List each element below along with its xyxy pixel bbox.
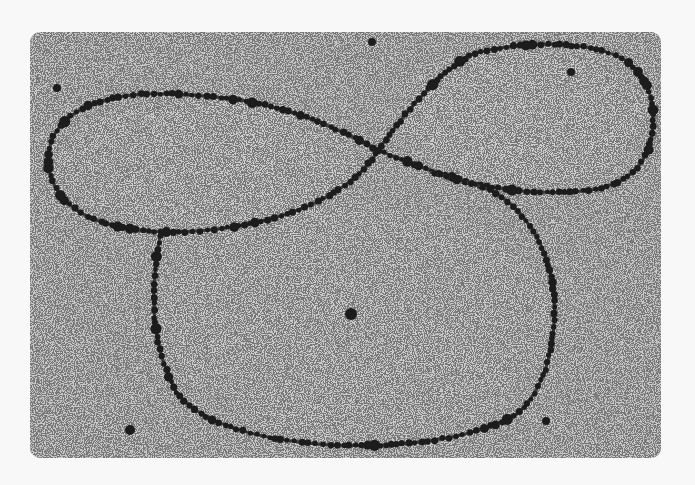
nucleosome-bead <box>54 185 60 191</box>
nucleosome-bead <box>402 111 409 118</box>
nucleosome-bead <box>225 225 230 230</box>
nucleosome-bead <box>399 157 404 162</box>
nucleosome-bead <box>534 234 539 239</box>
nucleosome-bead <box>181 229 188 236</box>
nucleosome-bead <box>154 339 161 346</box>
nucleosome-bead <box>157 346 164 353</box>
nucleosome-bead <box>50 133 57 140</box>
nucleosome-bead <box>255 431 260 436</box>
nucleosome-bead <box>530 188 537 195</box>
nucleosome-bead <box>197 228 203 234</box>
nucleosome-bead <box>292 438 297 443</box>
nucleosome-bead <box>527 223 533 229</box>
nucleosome-bead <box>398 118 404 124</box>
nucleosome-bead <box>123 94 128 99</box>
nucleosome-bead <box>402 156 413 167</box>
nucleosome-bead <box>158 233 164 239</box>
nucleosome-bead <box>180 398 187 405</box>
nucleosome-bead <box>502 185 509 192</box>
particle <box>567 68 575 76</box>
nucleosome-bead <box>412 440 417 445</box>
nucleosome-bead <box>515 208 521 214</box>
nucleosome-bead <box>292 110 297 115</box>
nucleosome-bead <box>264 217 271 224</box>
nucleosome-bead <box>138 90 145 97</box>
nucleosome-bead <box>484 48 491 55</box>
nucleosome-bead <box>532 391 537 396</box>
nucleosome-bead <box>613 52 619 58</box>
nucleosome-bead <box>85 214 91 220</box>
nucleosome-bead <box>279 213 284 218</box>
nucleosome-bead <box>649 130 656 137</box>
nucleosome-bead <box>228 424 233 429</box>
nucleosome-bead <box>473 427 480 434</box>
nucleosome-bead <box>544 359 550 365</box>
nucleosome-bead <box>648 95 654 101</box>
nucleosome-bead <box>151 91 157 97</box>
nucleosome-bead <box>233 426 239 432</box>
nucleosome-bead <box>189 93 194 98</box>
nucleosome-bead <box>650 117 656 123</box>
nucleosome-bead <box>132 226 139 233</box>
nucleosome-bead <box>74 109 79 114</box>
nucleosome-bead <box>228 95 238 105</box>
nucleosome-bead <box>262 434 267 439</box>
nucleosome-bead <box>250 218 260 228</box>
nucleosome-bead <box>271 214 278 221</box>
nucleosome-bead <box>630 169 636 175</box>
nucleosome-bead <box>552 317 558 323</box>
nucleosome-bead <box>375 147 382 154</box>
nucleosome-bead <box>312 441 317 446</box>
nucleosome-bead <box>543 367 549 373</box>
nucleosome-bead <box>356 171 361 176</box>
nucleosome-bead <box>537 190 543 196</box>
nucleosome-bead <box>164 91 170 97</box>
nucleosome-bead <box>646 89 651 94</box>
nucleosome-bead <box>619 56 625 62</box>
nucleosome-bead <box>449 175 456 182</box>
nucleosome-bead <box>378 443 383 448</box>
particle <box>542 417 550 425</box>
nucleosome-bead <box>219 226 224 231</box>
nucleosome-bead <box>274 105 280 111</box>
nucleosome-bead <box>548 347 555 354</box>
nucleosome-bead <box>581 188 586 193</box>
nucleosome-bead <box>548 274 555 281</box>
nucleosome-bead <box>650 123 657 130</box>
nucleosome-bead <box>236 223 241 228</box>
nucleosome-bead <box>539 246 544 251</box>
nucleosome-bead <box>78 210 84 216</box>
nucleosome-bead <box>151 307 158 314</box>
nucleosome-bead <box>407 106 413 112</box>
nucleosome-bead <box>431 437 438 444</box>
nucleosome-bead <box>510 204 517 211</box>
nucleosome-bead <box>353 442 358 447</box>
nucleosome-bead <box>48 138 54 144</box>
nucleosome-bead <box>241 222 248 229</box>
nucleosome-bead <box>552 304 557 309</box>
nucleosome-bead <box>215 420 222 427</box>
nucleosome-bead <box>467 429 473 435</box>
nucleosome-bead <box>191 406 198 413</box>
nucleosome-bead <box>638 159 644 165</box>
nucleosome-bead <box>130 92 136 98</box>
nucleosome-bead <box>153 267 158 272</box>
nucleosome-bead <box>204 93 211 100</box>
nucleosome-bead <box>524 218 529 223</box>
nucleosome-bead <box>585 187 592 194</box>
nucleosome-bead <box>55 128 60 133</box>
nucleosome-bead <box>79 106 86 113</box>
nucleosome-bead <box>158 92 163 97</box>
nucleosome-bead <box>152 300 157 305</box>
nucleosome-bead <box>72 205 79 212</box>
nucleosome-bead <box>345 442 352 449</box>
nucleosome-bead <box>105 97 111 103</box>
nucleosome-bead <box>258 219 263 224</box>
nucleosome-bead <box>642 152 649 159</box>
nucleosome-bead <box>527 40 537 50</box>
nucleosome-bead <box>223 422 229 428</box>
nucleosome-bead <box>548 340 555 347</box>
nucleosome-bead <box>598 185 604 191</box>
nucleosome-bead <box>353 135 358 140</box>
particle <box>53 84 61 92</box>
